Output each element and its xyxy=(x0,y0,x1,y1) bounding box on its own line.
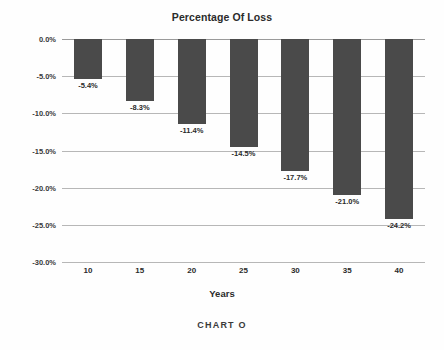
y-axis-tick-label: -5.0% xyxy=(10,72,56,81)
bar-value-label: -17.7% xyxy=(265,173,325,182)
bar[interactable] xyxy=(74,39,102,79)
bar-value-label: -8.3% xyxy=(110,103,170,112)
chart-caption: CHART O xyxy=(0,320,444,330)
bar-value-label: -5.4% xyxy=(58,81,118,90)
bar-value-label: -24.2% xyxy=(369,221,429,230)
bar[interactable] xyxy=(230,39,258,147)
y-axis-tick-label: -20.0% xyxy=(10,183,56,192)
y-axis-tick-label: -25.0% xyxy=(10,220,56,229)
bar[interactable] xyxy=(385,39,413,219)
bar[interactable] xyxy=(333,39,361,195)
bar[interactable] xyxy=(126,39,154,101)
y-axis: 0.0%-5.0%-10.0%-15.0%-20.0%-25.0%-30.0% xyxy=(8,39,56,262)
x-axis: 10152025303540 xyxy=(62,266,425,282)
gridline xyxy=(62,262,425,263)
chart-canvas: Percentage Of Loss 0.0%-5.0%-10.0%-15.0%… xyxy=(0,0,444,350)
bar[interactable] xyxy=(281,39,309,171)
y-axis-tick-label: -15.0% xyxy=(10,146,56,155)
gridline xyxy=(62,188,425,189)
y-axis-tick-label: -10.0% xyxy=(10,109,56,118)
y-axis-tick-label: 0.0% xyxy=(10,35,56,44)
plot-area: -5.4%-8.3%-11.4%-14.5%-17.7%-21.0%-24.2% xyxy=(62,39,425,262)
bar[interactable] xyxy=(178,39,206,124)
x-axis-title: Years xyxy=(0,288,444,299)
bar-value-label: -11.4% xyxy=(162,126,222,135)
y-axis-tick-label: -30.0% xyxy=(10,258,56,267)
bar-value-label: -14.5% xyxy=(214,149,274,158)
bar-value-label: -21.0% xyxy=(317,197,377,206)
chart-title: Percentage Of Loss xyxy=(0,11,444,23)
x-axis-tick-label: 40 xyxy=(369,266,429,275)
